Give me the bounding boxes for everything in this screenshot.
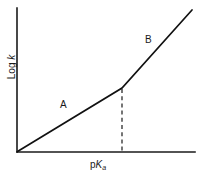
x-axis-label: pKa [76,154,120,170]
y-axis-label-text: Log k [6,55,17,79]
segment-label-b: B [145,35,152,45]
plot-area [0,0,201,170]
segment-label-a: A [60,100,67,110]
y-axis-label: Log k [1,39,15,95]
y-axis-label-symbol: k [6,55,17,60]
figure-container: Log k pKa A B [0,0,201,170]
y-axis-label-prefix: Log [6,60,17,79]
x-axis-label-subscript: a [102,164,106,170]
x-axis-label-text: pKa [90,159,106,170]
plot-line-piecewise [18,10,193,152]
